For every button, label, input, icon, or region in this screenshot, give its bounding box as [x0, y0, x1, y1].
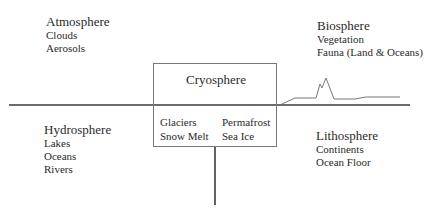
lithosphere-item-continents: Continents	[316, 143, 364, 156]
hydrosphere-item-lakes: Lakes	[44, 137, 70, 150]
biosphere-title: Biosphere	[317, 18, 370, 33]
hydrosphere-title: Hydrosphere	[44, 122, 111, 137]
terrain-profile-line	[282, 78, 400, 104]
biosphere-item-vegetation: Vegetation	[317, 33, 364, 46]
hydrosphere-item-rivers: Rivers	[44, 163, 73, 176]
cryosphere-item-glaciers: Glaciers	[160, 116, 197, 129]
atmosphere-item-clouds: Clouds	[46, 29, 77, 42]
cryosphere-item-snow-melt: Snow Melt	[160, 130, 209, 143]
biosphere-item-fauna: Fauna (Land & Oceans)	[317, 46, 423, 59]
lithosphere-item-ocean-floor: Ocean Floor	[316, 156, 371, 169]
cryosphere-item-sea-ice: Sea Ice	[222, 130, 254, 143]
atmosphere-item-aerosols: Aerosols	[46, 42, 85, 55]
cryosphere-item-permafrost: Permafrost	[222, 116, 270, 129]
atmosphere-title: Atmosphere	[46, 14, 110, 29]
hydrosphere-item-oceans: Oceans	[44, 150, 76, 163]
lithosphere-title: Lithosphere	[316, 128, 378, 143]
cryosphere-title: Cryosphere	[186, 72, 246, 87]
